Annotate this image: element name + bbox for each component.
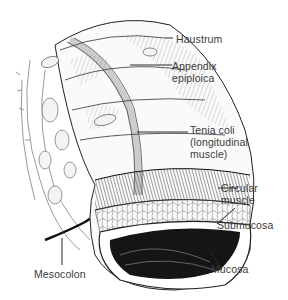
label-tenia-coli: Tenia coli (longitudinal muscle) [190, 124, 248, 160]
label-circular-muscle: Circular muscle [221, 182, 258, 206]
label-appendix-epiploica: Appendix epiploica [172, 60, 217, 84]
label-haustrum: Haustrum [176, 33, 222, 45]
label-submucosa: Submucosa [217, 219, 273, 231]
colon-anatomy-figure: Haustrum Appendix epiploica Tenia coli (… [0, 0, 288, 300]
label-mucosa: Mucosa [211, 263, 248, 275]
label-mesocolon: Mesocolon [34, 268, 86, 280]
